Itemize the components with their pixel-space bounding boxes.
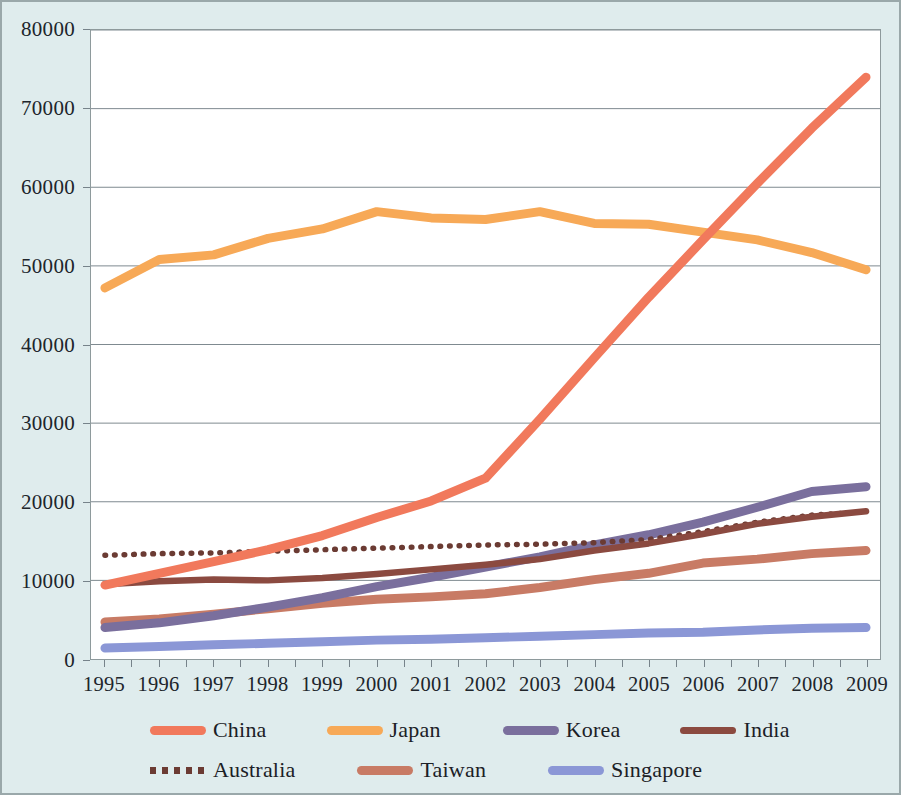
x-minor-tick-mark <box>731 660 732 667</box>
legend-swatch-india-icon <box>680 727 736 734</box>
legend-item-korea[interactable]: Korea <box>503 717 621 743</box>
x-tick-label: 1995 <box>83 673 125 696</box>
y-tick-label: 0 <box>64 648 75 673</box>
x-tick-label: 2002 <box>465 673 507 696</box>
legend-swatch-australia-icon <box>150 767 206 774</box>
series-line-japan <box>105 212 866 288</box>
legend-label-taiwan: Taiwan <box>420 757 486 783</box>
x-tick-label: 2005 <box>628 673 670 696</box>
y-tick-mark <box>83 29 90 30</box>
series-line-singapore <box>105 628 866 648</box>
legend-row-1: ChinaJapanKoreaIndia <box>90 710 890 750</box>
legend-item-australia[interactable]: Australia <box>150 757 295 783</box>
series-line-india <box>105 511 866 584</box>
y-tick-label: 50000 <box>21 253 75 278</box>
x-minor-tick-mark <box>349 660 350 667</box>
x-tick-label: 2000 <box>356 673 398 696</box>
legend-label-china: China <box>213 717 267 743</box>
x-tick-label: 2009 <box>846 673 888 696</box>
x-minor-tick-mark <box>840 660 841 667</box>
y-tick-label: 10000 <box>21 569 75 594</box>
x-minor-tick-mark <box>240 660 241 667</box>
legend-item-japan[interactable]: Japan <box>327 717 441 743</box>
x-minor-tick-mark <box>295 660 296 667</box>
legend-label-singapore: Singapore <box>611 757 702 783</box>
x-minor-tick-mark <box>567 660 568 667</box>
series-line-australia <box>105 512 866 555</box>
legend-label-australia: Australia <box>213 757 295 783</box>
y-tick-mark <box>83 345 90 346</box>
x-tick-label: 2004 <box>574 673 616 696</box>
x-minor-tick-mark <box>676 660 677 667</box>
line-chart-svg <box>91 30 880 659</box>
chart-legend: ChinaJapanKoreaIndia AustraliaTaiwanSing… <box>90 710 890 790</box>
x-tick-label: 1997 <box>192 673 234 696</box>
x-tick-mark <box>649 660 650 667</box>
y-tick-mark <box>83 581 90 582</box>
legend-swatch-korea-icon <box>503 726 559 735</box>
x-minor-tick-mark <box>186 660 187 667</box>
y-tick-label: 30000 <box>21 411 75 436</box>
x-minor-tick-mark <box>785 660 786 667</box>
x-tick-mark <box>704 660 705 667</box>
x-tick-mark <box>377 660 378 667</box>
y-tick-mark <box>83 266 90 267</box>
x-minor-tick-mark <box>131 660 132 667</box>
x-tick-label: 1999 <box>301 673 343 696</box>
legend-item-taiwan[interactable]: Taiwan <box>357 757 486 783</box>
y-tick-mark <box>83 423 90 424</box>
y-tick-mark <box>83 660 90 661</box>
x-minor-tick-mark <box>458 660 459 667</box>
x-tick-mark <box>322 660 323 667</box>
x-tick-mark <box>213 660 214 667</box>
x-axis: 1995199619971998199920002001200220032004… <box>90 667 881 701</box>
x-tick-label: 1998 <box>247 673 289 696</box>
legend-label-india: India <box>743 717 789 743</box>
x-tick-mark <box>595 660 596 667</box>
x-tick-label: 2008 <box>792 673 834 696</box>
legend-item-china[interactable]: China <box>150 717 267 743</box>
x-tick-label: 2001 <box>410 673 452 696</box>
y-tick-label: 80000 <box>21 17 75 42</box>
x-minor-tick-mark <box>513 660 514 667</box>
x-tick-mark <box>431 660 432 667</box>
y-axis: 0100002000030000400005000060000700008000… <box>5 5 83 685</box>
x-tick-mark <box>159 660 160 667</box>
x-tick-label: 2007 <box>737 673 779 696</box>
chart-figure: 0100002000030000400005000060000700008000… <box>0 0 901 795</box>
y-tick-mark <box>83 108 90 109</box>
y-tick-mark <box>83 187 90 188</box>
legend-item-singapore[interactable]: Singapore <box>548 757 702 783</box>
y-tick-label: 40000 <box>21 332 75 357</box>
plot-area <box>90 29 881 660</box>
x-tick-label: 2006 <box>683 673 725 696</box>
legend-swatch-singapore-icon <box>548 766 604 775</box>
x-tick-mark <box>813 660 814 667</box>
legend-swatch-japan-icon <box>327 726 383 735</box>
x-tick-label: 2003 <box>519 673 561 696</box>
y-tick-label: 60000 <box>21 174 75 199</box>
legend-swatch-china-icon <box>150 726 206 735</box>
legend-label-japan: Japan <box>390 717 441 743</box>
chart-inner-panel: 0100002000030000400005000060000700008000… <box>5 5 896 790</box>
y-tick-label: 20000 <box>21 490 75 515</box>
x-tick-mark <box>486 660 487 667</box>
legend-item-india[interactable]: India <box>680 717 789 743</box>
x-tick-mark <box>540 660 541 667</box>
x-tick-mark <box>268 660 269 667</box>
x-minor-tick-mark <box>622 660 623 667</box>
y-tick-label: 70000 <box>21 95 75 120</box>
x-tick-label: 1996 <box>138 673 180 696</box>
x-tick-mark <box>867 660 868 667</box>
y-tick-mark <box>83 502 90 503</box>
x-tick-mark <box>758 660 759 667</box>
legend-label-korea: Korea <box>566 717 621 743</box>
legend-swatch-taiwan-icon <box>357 766 413 775</box>
x-minor-tick-mark <box>404 660 405 667</box>
legend-row-2: AustraliaTaiwanSingapore <box>90 750 890 790</box>
x-tick-mark <box>104 660 105 667</box>
